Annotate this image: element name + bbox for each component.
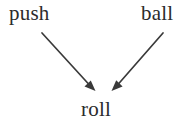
diagram-canvas: push ball roll bbox=[0, 0, 193, 124]
edge-push-to-roll bbox=[42, 33, 96, 91]
node-label-roll: roll bbox=[81, 99, 111, 120]
edge-ball-to-roll bbox=[112, 33, 164, 91]
node-label-ball: ball bbox=[141, 3, 173, 24]
node-label-push: push bbox=[9, 3, 49, 24]
